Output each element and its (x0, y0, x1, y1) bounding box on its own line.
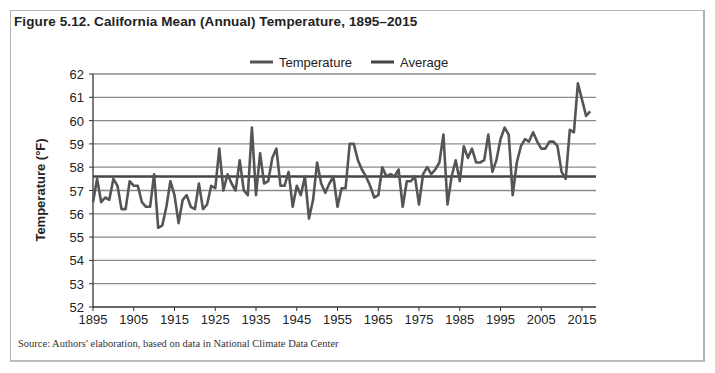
temperature-line (93, 83, 590, 228)
y-tick-label: 56 (70, 207, 84, 222)
x-tick-label: 1995 (486, 312, 515, 327)
y-tick-label: 55 (70, 230, 84, 245)
y-tick-label: 61 (70, 90, 84, 105)
y-axis: 5253545556575859606162 (70, 67, 93, 315)
legend-label-temperature: Temperature (279, 55, 352, 70)
x-tick-label: 1975 (405, 312, 434, 327)
y-tick-label: 54 (70, 253, 84, 268)
y-tick-label: 58 (70, 160, 84, 175)
x-tick-label: 1905 (119, 312, 148, 327)
x-tick-label: 1925 (201, 312, 230, 327)
x-axis: 1895190519151925193519451955196519751985… (79, 307, 597, 327)
x-tick-label: 1915 (160, 312, 189, 327)
y-tick-label: 53 (70, 277, 84, 292)
x-tick-label: 1955 (323, 312, 352, 327)
x-tick-label: 1985 (445, 312, 474, 327)
x-tick-label: 1895 (79, 312, 108, 327)
y-tick-label: 62 (70, 67, 84, 82)
x-tick-label: 1945 (282, 312, 311, 327)
x-tick-label: 1935 (242, 312, 271, 327)
source-note: Source: Authors' elaboration, based on d… (18, 338, 339, 349)
y-tick-label: 59 (70, 137, 84, 152)
y-tick-label: 60 (70, 114, 84, 129)
x-tick-label: 2005 (527, 312, 556, 327)
gridlines (93, 74, 596, 284)
legend-label-average: Average (400, 55, 448, 70)
x-tick-label: 2015 (568, 312, 597, 327)
y-axis-title: Temperature (°F) (33, 138, 48, 241)
line-chart: 5253545556575859606162 18951905191519251… (0, 0, 715, 373)
x-tick-label: 1965 (364, 312, 393, 327)
legend: Temperature Average (250, 55, 448, 70)
y-tick-label: 57 (70, 184, 84, 199)
